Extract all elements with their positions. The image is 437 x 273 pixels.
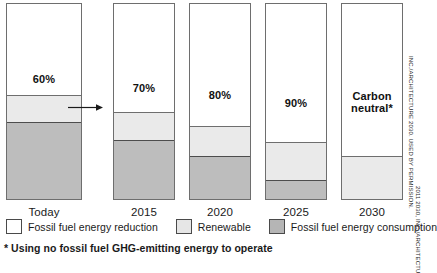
segment-renewable-2025 [266,142,326,181]
segment-renewable-2020 [190,126,250,157]
x-axis-label-today: Today [6,206,82,218]
credit-block: INC./ARCHITECTURE 2030. USED BY PERMISSI… [400,0,425,254]
bar-2025: 90% [265,3,327,200]
bar-label-2025: 90% [285,97,307,110]
legend-swatch-fossil-icon [269,219,285,234]
segment-renewable-2030 [342,156,402,199]
segment-reduction-today: 60% [7,4,81,95]
segment-reduction-2030: Carbonneutral* [342,4,402,156]
x-axis-label-2015: 2015 [113,206,175,218]
x-axis-label-2025: 2025 [265,206,327,218]
bar-label-2015: 70% [133,82,155,95]
segment-fossil-2020 [190,156,250,199]
stacked-bar-chart: 60% Today 70% 2015 80% 2020 [0,0,400,205]
bar-2020: 80% [189,3,251,200]
bar-group-2025: 90% 2025 [265,3,327,200]
bar-label-2030-line2: neutral* [351,102,393,114]
legend-item-renewable: Renewable [176,219,251,234]
bar-label-2030-line1: Carbon [352,90,391,102]
x-axis-label-2020: 2020 [189,206,251,218]
segment-reduction-2020: 80% [190,4,250,126]
segment-fossil-2025 [266,180,326,199]
segment-fossil-2015 [114,140,174,199]
bar-today: 60% [6,3,82,200]
x-axis-label-2030: 2030 [341,206,403,218]
arrow-icon [68,103,104,112]
bar-label-2030: Carbonneutral* [351,90,393,115]
bar-group-2020: 80% 2020 [189,3,251,200]
segment-fossil-today [7,122,81,199]
bar-group-today: 60% Today [6,3,82,200]
credit-line-copyright: 2011 2030, INC./ARCHITECTU [415,186,421,273]
segment-reduction-2025: 90% [266,4,326,142]
bar-2030: Carbonneutral* [341,3,403,200]
chart-legend: Fossil fuel energy reduction Renewable F… [6,219,437,234]
legend-label-reduction: Fossil fuel energy reduction [28,221,158,233]
legend-item-reduction: Fossil fuel energy reduction [6,219,158,234]
bar-label-today: 60% [33,73,55,86]
credit-line-permission: INC./ARCHITECTURE 2030. USED BY PERMISSI… [408,56,414,209]
legend-swatch-reduction-icon [6,219,22,234]
segment-reduction-2015: 70% [114,4,174,112]
bar-label-2020: 80% [209,89,231,102]
bar-group-2030: Carbonneutral* 2030 [341,3,403,200]
legend-label-renewable: Renewable [198,221,251,233]
bar-2015: 70% [113,3,175,200]
footnote-text: * Using no fossil fuel GHG-emitting ener… [4,242,273,254]
segment-renewable-2015 [114,112,174,140]
legend-swatch-renewable-icon [176,219,192,234]
bar-group-2015: 70% 2015 [113,3,175,200]
